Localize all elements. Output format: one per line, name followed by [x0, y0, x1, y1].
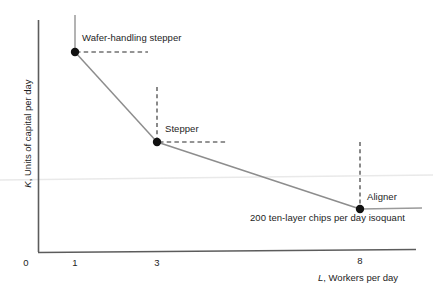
x-axis-title-text: , Workers per day	[323, 272, 398, 283]
isoquant-horizontal-extension	[360, 208, 422, 209]
scan-artifact-line	[0, 175, 433, 180]
y-axis-title-symbol: K	[22, 181, 33, 187]
x-tick-label-1: 1	[65, 258, 85, 268]
y-axis-title: K, Units of capital per day	[22, 59, 33, 209]
chart-plot-area	[0, 0, 433, 300]
y-axis-title-text: , Units of capital per day	[22, 79, 33, 181]
x-tick-label-3: 3	[147, 258, 167, 268]
x-tick-label-8: 8	[350, 256, 370, 266]
isoquant-chart-figure: K, Units of capital per day L, Workers p…	[0, 0, 433, 300]
x-axis-line	[38, 250, 416, 253]
label-isoquant: 200 ten-layer chips per day isoquant	[250, 213, 405, 223]
data-point-stepper	[153, 138, 161, 146]
label-aligner: Aligner	[367, 192, 397, 202]
label-stepper: Stepper	[165, 124, 199, 134]
x-tick-label-0: 0	[16, 258, 36, 268]
label-wafer-handling-stepper: Wafer-handling stepper	[82, 33, 182, 43]
data-point-wafer-handling-stepper	[71, 48, 79, 56]
x-axis-title: L, Workers per day	[318, 272, 398, 283]
isoquant-segment-1	[75, 52, 157, 142]
